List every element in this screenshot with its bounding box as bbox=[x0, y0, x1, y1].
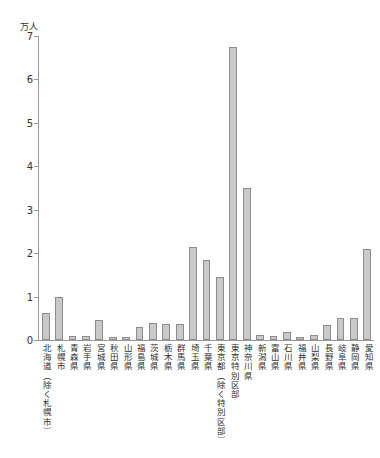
y-tick-label: 7 bbox=[27, 31, 33, 42]
y-tick-label: 3 bbox=[27, 204, 33, 215]
bar-slot bbox=[320, 36, 333, 340]
bar bbox=[109, 337, 117, 340]
bar bbox=[310, 335, 318, 340]
bar bbox=[256, 335, 264, 340]
bar bbox=[176, 324, 184, 341]
x-axis-label: 岩手県 bbox=[81, 344, 90, 372]
bar-slot bbox=[173, 36, 186, 340]
bar bbox=[243, 188, 251, 340]
bar-slot bbox=[227, 36, 240, 340]
bar bbox=[122, 337, 130, 340]
bar bbox=[283, 332, 291, 340]
x-axis-label: 神奈川県 bbox=[242, 344, 251, 381]
bar-slot bbox=[253, 36, 266, 340]
y-tick-label: 1 bbox=[27, 291, 33, 302]
bar bbox=[55, 297, 63, 340]
x-axis-label: 山梨県 bbox=[309, 344, 318, 372]
x-axis-label: 札幌市 bbox=[55, 344, 64, 372]
bar bbox=[42, 313, 50, 340]
x-axis-label: 山形県 bbox=[122, 344, 131, 372]
y-tick-label: 0 bbox=[27, 335, 33, 346]
bar bbox=[95, 320, 103, 340]
bar-slot bbox=[334, 36, 347, 340]
bar-slot bbox=[213, 36, 226, 340]
x-axis-label: 新潟県 bbox=[256, 344, 265, 372]
x-axis-label: 富山県 bbox=[269, 344, 278, 372]
bar-series bbox=[39, 36, 374, 340]
bar bbox=[149, 323, 157, 340]
bar-slot bbox=[93, 36, 106, 340]
x-axis-label: 宮城県 bbox=[95, 344, 104, 372]
bar bbox=[82, 336, 90, 340]
x-axis-label: 静岡県 bbox=[349, 344, 358, 372]
bar-slot bbox=[280, 36, 293, 340]
bar-slot bbox=[52, 36, 65, 340]
bar bbox=[189, 247, 197, 340]
x-axis-line bbox=[38, 340, 374, 341]
bar bbox=[216, 277, 224, 340]
bar-slot bbox=[267, 36, 280, 340]
bar bbox=[69, 336, 77, 340]
bar-slot bbox=[294, 36, 307, 340]
x-axis-label: 岐阜県 bbox=[336, 344, 345, 372]
bar bbox=[337, 318, 345, 340]
x-axis-label: 福井県 bbox=[296, 344, 305, 372]
bar bbox=[323, 325, 331, 340]
y-tick-label: 5 bbox=[27, 117, 33, 128]
bar-slot bbox=[160, 36, 173, 340]
x-axis-labels: 北海道（除く札幌市）札幌市青森県岩手県宮城県秋田県山形県福島県茨城県栃木県群馬県… bbox=[39, 344, 374, 454]
x-axis-label: 福島県 bbox=[135, 344, 144, 372]
bar bbox=[350, 318, 358, 340]
x-axis-label: 青森県 bbox=[68, 344, 77, 372]
x-axis-label: 長野県 bbox=[323, 344, 332, 372]
x-axis-label: 東京特別区部 bbox=[229, 344, 238, 399]
x-axis-label: 埼玉県 bbox=[189, 344, 198, 372]
bar-slot bbox=[106, 36, 119, 340]
bar-slot bbox=[200, 36, 213, 340]
bar-slot bbox=[347, 36, 360, 340]
x-axis-label: 愛知県 bbox=[363, 344, 372, 372]
x-axis-label: 茨城県 bbox=[148, 344, 157, 372]
bar-slot bbox=[186, 36, 199, 340]
x-axis-label: 東京都（除く特別区部） bbox=[215, 344, 224, 445]
bar bbox=[136, 327, 144, 340]
y-tick: 0 bbox=[38, 340, 39, 341]
bar-slot bbox=[119, 36, 132, 340]
y-tick-mark bbox=[34, 340, 39, 341]
bar bbox=[229, 47, 237, 340]
x-axis-label: 群馬県 bbox=[175, 344, 184, 372]
bar-slot bbox=[79, 36, 92, 340]
y-tick-label: 6 bbox=[27, 74, 33, 85]
x-axis-label: 石川県 bbox=[282, 344, 291, 372]
x-axis-label: 秋田県 bbox=[108, 344, 117, 372]
bar-slot bbox=[39, 36, 52, 340]
bar-slot bbox=[361, 36, 374, 340]
plot-area: 01234567 bbox=[38, 36, 374, 340]
bar bbox=[270, 336, 278, 340]
bar bbox=[162, 324, 170, 341]
x-axis-label: 千葉県 bbox=[202, 344, 211, 372]
bar-slot bbox=[307, 36, 320, 340]
bar-slot bbox=[133, 36, 146, 340]
x-axis-label: 北海道（除く札幌市） bbox=[41, 344, 50, 436]
bar-slot bbox=[146, 36, 159, 340]
bar-slot bbox=[66, 36, 79, 340]
y-tick-label: 4 bbox=[27, 161, 33, 172]
bar bbox=[363, 249, 371, 340]
bar-slot bbox=[240, 36, 253, 340]
bar bbox=[203, 260, 211, 340]
x-axis-label: 栃木県 bbox=[162, 344, 171, 372]
y-tick-label: 2 bbox=[27, 248, 33, 259]
bar-chart: 万人 01234567 北海道（除く札幌市）札幌市青森県岩手県宮城県秋田県山形県… bbox=[0, 0, 380, 458]
bar bbox=[296, 337, 304, 340]
